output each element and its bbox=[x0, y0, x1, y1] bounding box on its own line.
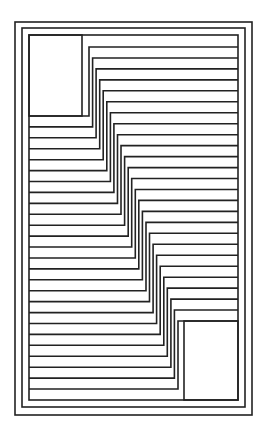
bottom-right-box bbox=[184, 321, 238, 400]
stepped-lines-diagram bbox=[0, 0, 271, 439]
top-left-box bbox=[29, 35, 82, 116]
frame-1 bbox=[22, 28, 245, 407]
